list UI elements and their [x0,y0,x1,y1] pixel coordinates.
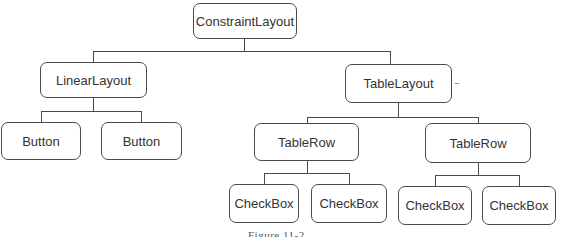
margin-tick-mark [455,83,459,84]
node-table-row-2: TableRow [425,123,531,163]
connector-row1-stem [307,161,308,173]
connector-button2-drop [141,111,142,122]
connector-table-bar [307,117,479,118]
connector-cb1-drop [264,173,265,184]
node-table-row-1: TableRow [254,123,359,161]
node-label: TableLayout [363,76,433,91]
node-label: TableRow [449,136,506,151]
connector-cb2-drop [349,173,350,184]
node-checkbox-1: CheckBox [229,184,299,223]
connector-row2-bar [435,175,520,176]
node-button-2: Button [101,122,182,160]
connector-linear-bar [41,111,142,112]
node-table-layout: TableLayout [345,64,452,103]
connector-root-bar [93,51,391,52]
node-button-1: Button [1,122,81,160]
connector-table-stem [398,103,399,118]
connector-button1-drop [41,111,42,122]
connector-cb4-drop [519,175,520,186]
figure-caption: Figure 11-2 [248,229,305,237]
node-checkbox-3: CheckBox [398,186,472,225]
node-label: TableRow [278,135,335,150]
node-label: CheckBox [319,196,378,211]
node-label: Button [22,134,60,149]
node-linear-layout: LinearLayout [40,62,147,98]
connector-row2-stem [478,163,479,175]
node-label: CheckBox [489,198,548,213]
connector-table-drop [390,51,391,64]
node-label: LinearLayout [56,73,131,88]
connector-linear-drop [93,51,94,62]
node-label: CheckBox [405,198,464,213]
connector-cb3-drop [435,175,436,186]
connector-linear-stem [93,97,94,112]
node-checkbox-4: CheckBox [482,186,556,225]
node-label: CheckBox [234,196,293,211]
node-constraint-layout: ConstraintLayout [193,3,297,39]
node-label: Button [123,134,161,149]
connector-root-stem [244,38,245,52]
node-label: ConstraintLayout [196,14,294,29]
connector-row1-bar [264,173,350,174]
node-checkbox-2: CheckBox [311,184,387,223]
